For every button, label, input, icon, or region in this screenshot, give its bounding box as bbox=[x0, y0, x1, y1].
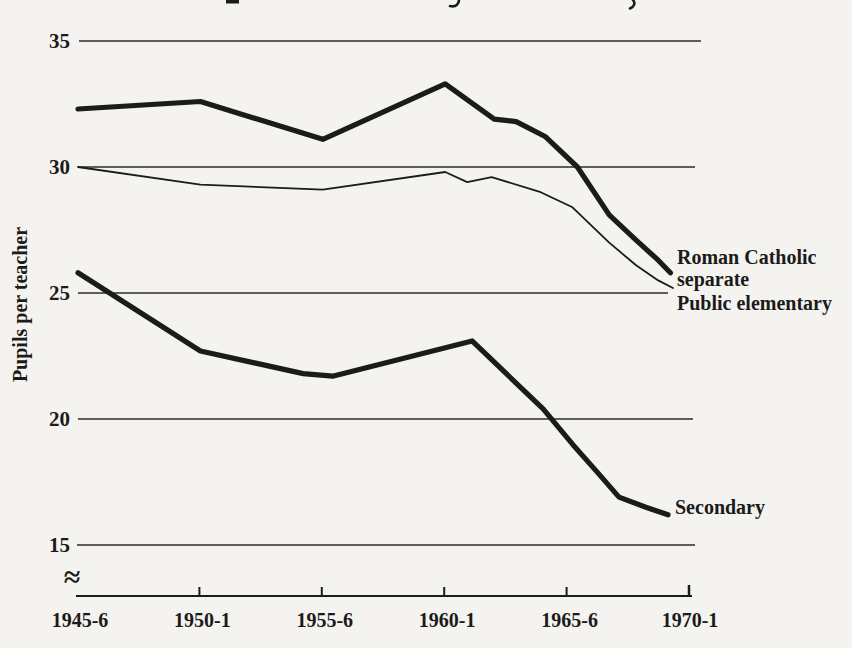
x-tick-label-1960-1: 1960-1 bbox=[397, 608, 497, 632]
x-tick-label-1950-1: 1950-1 bbox=[152, 608, 252, 632]
cropped-title-fragment bbox=[450, 0, 459, 6]
series-label-roman-catholic-line2: separate bbox=[677, 268, 816, 290]
chart-figure: Pupils per teacher ≈ Roman Catholic sepa… bbox=[0, 0, 852, 648]
series-label-secondary: Secondary bbox=[675, 496, 765, 518]
x-tick-label-1945-6: 1945-6 bbox=[30, 608, 130, 632]
cropped-title-fragment bbox=[630, 0, 634, 9]
y-tick-label-20: 20 bbox=[22, 406, 70, 432]
series-label-roman-catholic: Roman Catholic separate bbox=[677, 246, 816, 290]
series-label-roman-catholic-line1: Roman Catholic bbox=[677, 246, 816, 268]
plot-canvas bbox=[0, 0, 852, 648]
cropped-title-fragment bbox=[226, 0, 239, 4]
x-tick-label-1970-1: 1970-1 bbox=[640, 608, 740, 632]
y-tick-label-30: 30 bbox=[22, 154, 70, 180]
series-line-roman-catholic-separate bbox=[78, 84, 670, 273]
axis-break-symbol: ≈ bbox=[52, 562, 92, 592]
series-line-secondary bbox=[78, 273, 668, 515]
x-tick-label-1965-6: 1965-6 bbox=[520, 608, 620, 632]
x-tick-label-1955-6: 1955-6 bbox=[275, 608, 375, 632]
series-line-public-elementary bbox=[78, 167, 673, 288]
y-tick-label-25: 25 bbox=[22, 280, 70, 306]
series-label-public-elementary: Public elementary bbox=[677, 292, 832, 314]
y-tick-label-15: 15 bbox=[22, 532, 70, 558]
y-tick-label-35: 35 bbox=[22, 28, 70, 54]
